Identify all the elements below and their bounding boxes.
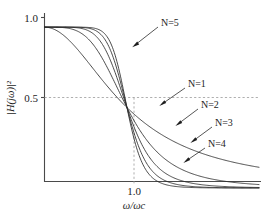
x-axis-tick-label-1-0: 1.0	[127, 185, 141, 197]
y-axis-tick-label-0-5: 0.5	[24, 92, 38, 104]
curve-annotation-n-5: N=5	[161, 17, 179, 28]
curve-n-4	[45, 27, 260, 188]
butterworth-response-figure: 1.0 0.5 1.0 |H(jω)|² ω/ωc N=5 N=1 N=2 N=…	[0, 0, 262, 214]
curve-annotation-n-1: N=1	[188, 78, 206, 89]
curve-annotation-n-4: N=4	[208, 138, 226, 149]
guide-lines-group	[45, 98, 259, 185]
leader-n-5	[135, 27, 158, 45]
curves-group	[45, 27, 260, 188]
curve-n-3	[45, 27, 260, 187]
y-axis-tick-label-1-0: 1.0	[24, 12, 38, 24]
leader-n-1	[162, 88, 185, 104]
y-axis-title: |H(jω)|²	[5, 80, 17, 115]
annotation-leaders-group	[132, 27, 212, 163]
arrowhead-n-1	[159, 100, 166, 106]
arrowhead-n-3	[190, 137, 197, 143]
curve-n-5	[45, 27, 260, 188]
x-axis-title: ω/ωc	[123, 200, 146, 211]
curve-annotation-n-2: N=2	[201, 99, 219, 110]
plot-svg: 1.0 0.5 1.0 |H(jω)|² ω/ωc N=5 N=1 N=2 N=…	[0, 0, 262, 214]
curve-annotation-n-3: N=3	[215, 117, 233, 128]
arrowhead-n-4	[183, 157, 190, 163]
